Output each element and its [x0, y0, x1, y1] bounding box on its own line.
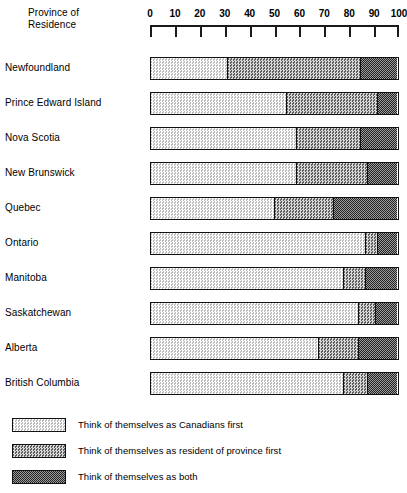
- bar-segment: [367, 163, 397, 184]
- bar-segment: [358, 303, 375, 324]
- bar-segment: [318, 338, 357, 359]
- bar-segment: [296, 163, 367, 184]
- bar-category-label: Quebec: [5, 202, 41, 213]
- bar-segment: [367, 373, 397, 394]
- bar-segment: [151, 268, 343, 289]
- bar-segment: [360, 58, 397, 79]
- bar-category-label: Newfoundland: [5, 62, 70, 73]
- bar-category-label: Manitoba: [5, 272, 47, 283]
- legend-item: Think of themselves as both: [0, 467, 407, 493]
- bar-category-label: Prince Edward Island: [5, 97, 102, 108]
- bar-row: Prince Edward Island: [0, 92, 407, 115]
- bar-category-label: British Columbia: [5, 377, 79, 388]
- bar-segment: [151, 93, 286, 114]
- bar-segment: [377, 233, 397, 254]
- bar-segment: [151, 373, 343, 394]
- legend-item: Think of themselves as Canadians first: [0, 415, 407, 441]
- bar-segment: [151, 163, 296, 184]
- bar-segment: [151, 58, 227, 79]
- bar-category-label: Saskatchewan: [5, 307, 71, 318]
- stacked-bar: [150, 337, 399, 360]
- stacked-bar: [150, 267, 399, 290]
- bar-segment: [274, 198, 333, 219]
- bar-segment: [377, 93, 397, 114]
- stacked-bar: [150, 197, 399, 220]
- bar-segment: [333, 198, 397, 219]
- stacked-bar: [150, 127, 399, 150]
- bar-segment: [343, 373, 368, 394]
- legend: Think of themselves as Canadians firstTh…: [0, 415, 407, 493]
- bar-category-label: Ontario: [5, 237, 39, 248]
- bar-segment: [358, 338, 397, 359]
- bars-container: NewfoundlandPrince Edward IslandNova Sco…: [0, 0, 407, 410]
- bar-segment: [286, 93, 377, 114]
- stacked-bar: [150, 162, 399, 185]
- legend-swatch: [12, 444, 66, 458]
- bar-row: Saskatchewan: [0, 302, 407, 325]
- stacked-bar: [150, 92, 399, 115]
- bar-segment: [365, 233, 377, 254]
- legend-label: Think of themselves as resident of provi…: [78, 445, 281, 456]
- bar-row: Manitoba: [0, 267, 407, 290]
- stacked-bar: [150, 302, 399, 325]
- bar-segment: [151, 128, 296, 149]
- bar-category-label: New Brunswick: [5, 167, 75, 178]
- legend-label: Think of themselves as Canadians first: [78, 419, 243, 430]
- stacked-bar: [150, 232, 399, 255]
- bar-row: Alberta: [0, 337, 407, 360]
- bar-segment: [360, 128, 397, 149]
- legend-label: Think of themselves as both: [78, 471, 198, 482]
- bar-row: Nova Scotia: [0, 127, 407, 150]
- bar-row: Ontario: [0, 232, 407, 255]
- bar-row: British Columbia: [0, 372, 407, 395]
- bar-row: New Brunswick: [0, 162, 407, 185]
- bar-segment: [227, 58, 360, 79]
- legend-item: Think of themselves as resident of provi…: [0, 441, 407, 467]
- bar-category-label: Alberta: [5, 342, 37, 353]
- bar-segment: [343, 268, 365, 289]
- stacked-bar: [150, 57, 399, 80]
- bar-row: Newfoundland: [0, 57, 407, 80]
- bar-segment: [365, 268, 397, 289]
- bar-category-label: Nova Scotia: [5, 132, 60, 143]
- legend-swatch: [12, 418, 66, 432]
- bar-row: Quebec: [0, 197, 407, 220]
- bar-segment: [151, 198, 274, 219]
- bar-segment: [375, 303, 397, 324]
- stacked-bar: [150, 372, 399, 395]
- bar-segment: [296, 128, 360, 149]
- legend-swatch: [12, 470, 66, 484]
- bar-segment: [151, 338, 318, 359]
- bar-segment: [151, 303, 358, 324]
- bar-segment: [151, 233, 365, 254]
